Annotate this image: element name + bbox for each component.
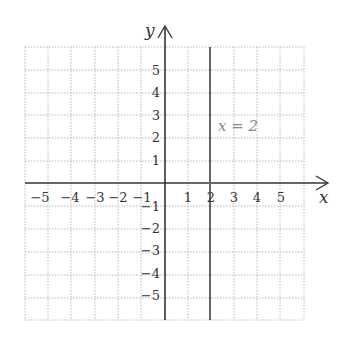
svg-text:3: 3 <box>230 190 238 205</box>
svg-text:5: 5 <box>277 190 285 205</box>
svg-text:−2: −2 <box>108 190 127 205</box>
svg-text:−5: −5 <box>30 190 49 205</box>
svg-text:5: 5 <box>152 63 160 78</box>
y-axis-label: y <box>144 20 155 40</box>
svg-text:1: 1 <box>152 153 160 168</box>
svg-text:−3: −3 <box>85 190 104 205</box>
svg-text:−4: −4 <box>60 190 79 205</box>
svg-text:−3: −3 <box>141 243 160 258</box>
x-axis <box>25 176 328 190</box>
svg-text:2: 2 <box>207 190 215 205</box>
svg-text:4: 4 <box>152 85 160 100</box>
line-label: x = 2 <box>218 117 258 135</box>
svg-text:4: 4 <box>253 190 261 205</box>
svg-text:2: 2 <box>152 130 160 145</box>
x-axis-label: x <box>319 187 329 207</box>
svg-text:−2: −2 <box>141 221 160 236</box>
svg-text:−1: −1 <box>141 199 160 214</box>
svg-text:1: 1 <box>184 190 192 205</box>
svg-text:−5: −5 <box>141 288 160 303</box>
svg-text:3: 3 <box>152 108 160 123</box>
coordinate-plane: x y −5 −4 −3 −2 −1 1 2 3 4 5 5 4 3 2 1 −… <box>0 0 346 338</box>
svg-text:−4: −4 <box>141 266 160 281</box>
